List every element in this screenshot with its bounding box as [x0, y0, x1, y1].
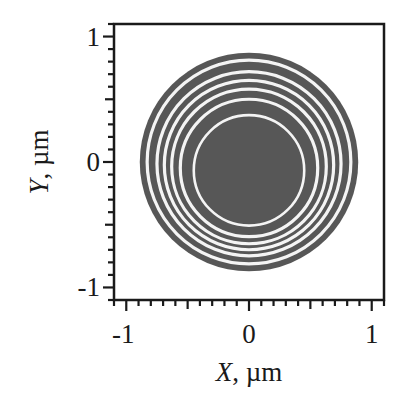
- x-tick-label: 1: [365, 319, 379, 349]
- y-axis-label: Y, µm: [24, 129, 54, 194]
- intensity-map: [140, 53, 358, 271]
- x-tick-label: 0: [242, 319, 256, 349]
- x-tick-label: -1: [112, 319, 135, 349]
- chart: -101-101 X, µm Y, µm: [0, 0, 405, 402]
- y-tick-label: 0: [87, 147, 101, 177]
- y-tick-label: 1: [87, 22, 101, 52]
- x-axis-label: X, µm: [215, 357, 283, 387]
- y-tick-label: -1: [78, 272, 101, 302]
